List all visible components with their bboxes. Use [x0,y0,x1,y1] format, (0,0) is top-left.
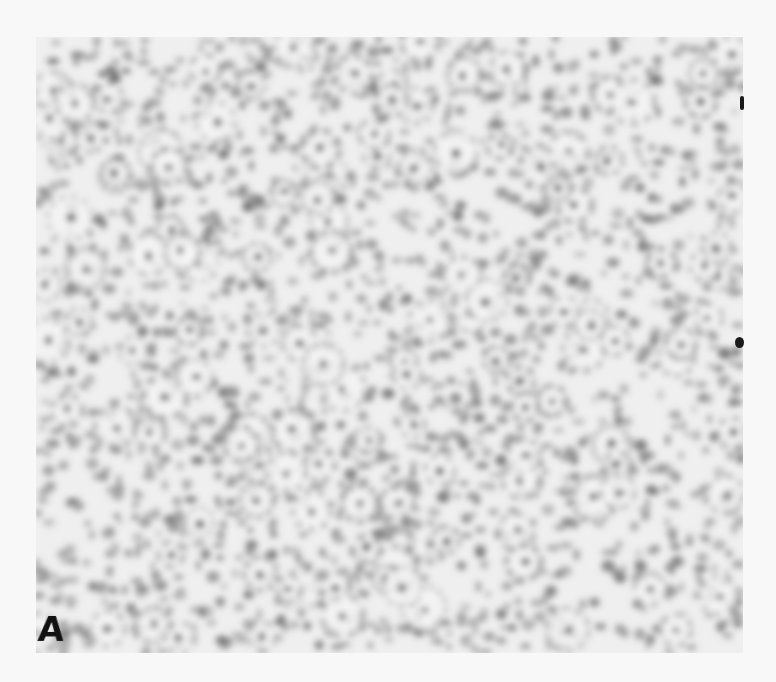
micrograph-texture [36,37,743,653]
edge-mark [740,96,744,110]
edge-mark [735,337,744,348]
panel-label: A [37,612,66,646]
micrograph-panel [36,37,743,653]
